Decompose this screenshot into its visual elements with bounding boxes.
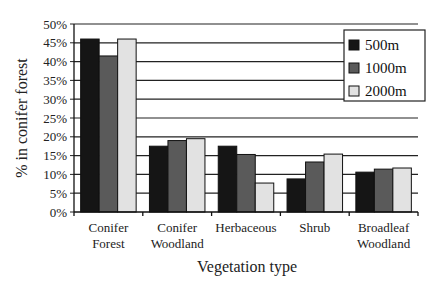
y-tick-label: 45% — [43, 35, 67, 50]
y-tick-label: 40% — [43, 54, 67, 69]
y-tick-label: 0% — [50, 205, 68, 220]
legend-swatch-500m — [349, 40, 359, 50]
bar-2000m — [186, 139, 205, 212]
bar-2000m — [324, 154, 343, 212]
y-tick-label: 15% — [43, 148, 67, 163]
bar-500m — [356, 172, 375, 212]
bar-1000m — [374, 169, 393, 212]
bar-500m — [149, 146, 168, 212]
x-category-label: Broadleaf — [358, 220, 410, 235]
y-axis-tick-labels: 0%5%10%15%20%25%30%35%40%45%50% — [43, 17, 67, 220]
y-tick-label: 50% — [43, 17, 67, 32]
y-axis-title: % in conifer forest — [13, 58, 30, 178]
bar-chart: 0%5%10%15%20%25%30%35%40%45%50% ConiferF… — [0, 0, 433, 291]
bar-1000m — [237, 154, 256, 212]
bar-2000m — [118, 39, 136, 212]
legend-label: 500m — [365, 37, 400, 53]
y-tick-label: 10% — [43, 167, 67, 182]
y-tick-label: 35% — [43, 73, 67, 88]
bar-500m — [81, 39, 100, 212]
x-category-label: Forest — [92, 236, 125, 251]
bar-500m — [287, 179, 306, 212]
bar-1000m — [99, 56, 118, 212]
legend-swatch-2000m — [349, 86, 359, 96]
bar-500m — [218, 146, 237, 212]
x-category-label: Conifer — [89, 220, 129, 235]
y-tick-label: 20% — [43, 129, 67, 144]
legend: 500m1000m2000m — [344, 30, 425, 101]
legend-swatch-1000m — [349, 63, 359, 73]
x-category-label: Woodland — [151, 236, 205, 251]
x-axis-title: Vegetation type — [197, 258, 297, 276]
bar-2000m — [255, 183, 274, 212]
y-tick-label: 5% — [50, 186, 68, 201]
x-category-label: Conifer — [157, 220, 197, 235]
bar-1000m — [306, 162, 325, 212]
bar-1000m — [168, 141, 187, 212]
x-category-label: Shrub — [299, 220, 330, 235]
bar-2000m — [393, 168, 412, 212]
x-axis-category-labels: ConiferForestConiferWoodlandHerbaceousSh… — [89, 220, 411, 251]
legend-label: 2000m — [365, 83, 407, 99]
y-tick-label: 30% — [43, 92, 67, 107]
y-tick-label: 25% — [43, 111, 67, 126]
x-category-label: Woodland — [357, 236, 411, 251]
x-category-label: Herbaceous — [215, 220, 276, 235]
legend-label: 1000m — [365, 60, 407, 76]
